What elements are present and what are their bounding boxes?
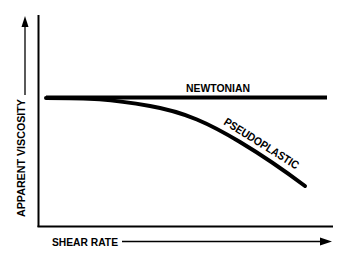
x-axis-arrow-icon [122, 238, 332, 246]
newtonian-label: NEWTONIAN [186, 82, 250, 94]
y-axis-arrow-icon [22, 16, 29, 95]
pseudoplastic-label: PSEUDOPLASTIC [222, 116, 301, 172]
y-axis-label: APPARENT VISCOSITY [15, 99, 27, 217]
x-axis-label: SHEAR RATE [52, 236, 118, 248]
viscosity-diagram: APPARENT VISCOSITY SHEAR RATE NEWTONIAN … [0, 0, 356, 259]
